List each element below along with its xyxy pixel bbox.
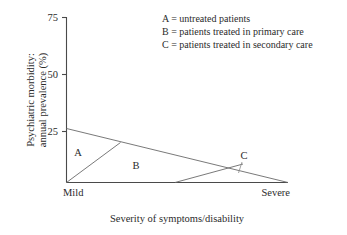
y-axis-title-line1: Psychiatric morbidity: [25,53,36,147]
y-tick-label-25: 25 [48,126,59,137]
region-label-a: A [74,147,82,158]
region-label-c: C [240,150,247,161]
chart-figure: 75 50 25 Psychiatric morbidity: annual p… [0,0,347,235]
legend-item-c: C = patients treated in secondary care [162,39,313,50]
y-axis-title-line2: annual prevalence (%) [37,52,49,147]
region-label-b: B [132,160,139,171]
series-b-c-boundary [175,164,243,183]
x-label-severe: Severe [261,187,290,198]
legend: A = untreated patients B = patients trea… [162,13,313,50]
legend-item-b: B = patients treated in primary care [162,26,304,37]
chart-canvas: 75 50 25 Psychiatric morbidity: annual p… [0,0,347,235]
x-label-mild: Mild [63,187,84,198]
y-tick-label-50: 50 [48,69,59,80]
legend-item-a: A = untreated patients [162,13,250,24]
y-axis-title: Psychiatric morbidity: annual prevalence… [25,52,49,147]
series-total-morbidity [67,129,289,183]
y-tick-label-75: 75 [48,12,59,23]
x-axis-title: Severity of symptoms/disability [110,213,245,224]
